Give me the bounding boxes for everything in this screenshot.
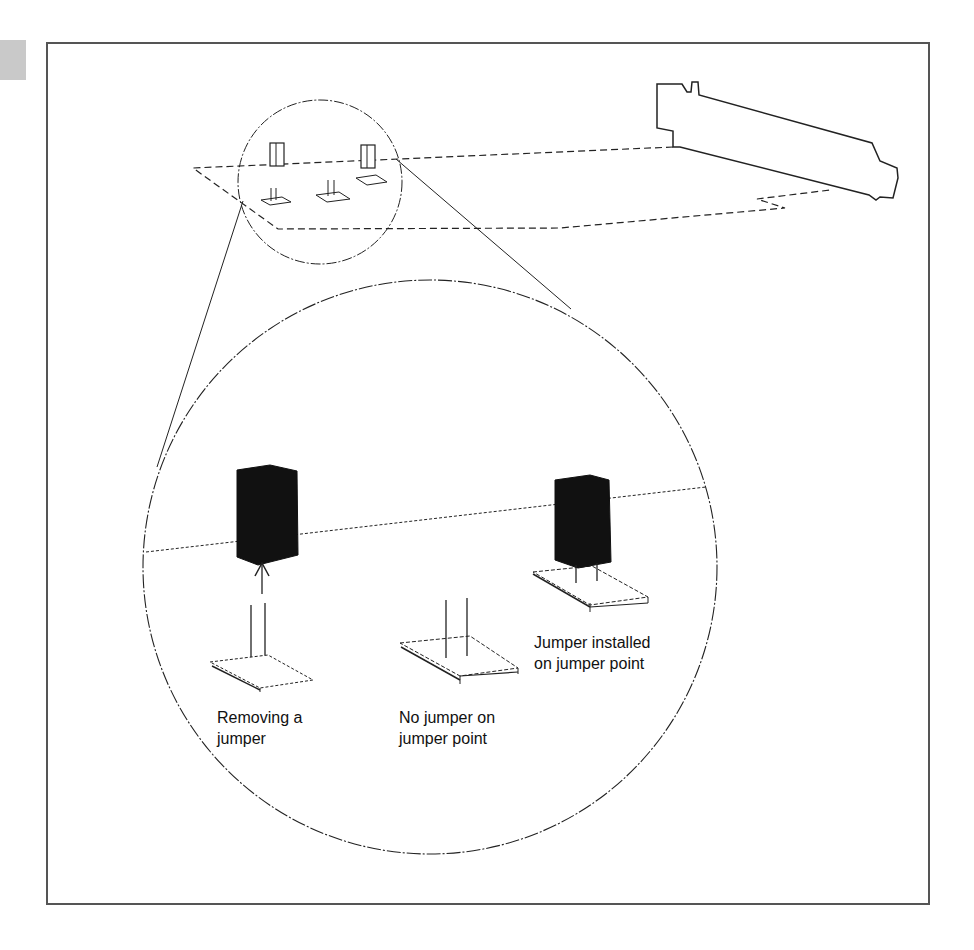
card-board-outline — [193, 147, 830, 229]
card-bracket — [657, 82, 898, 200]
expansion-card — [193, 82, 898, 229]
jumper-installed — [533, 475, 648, 612]
jumper-block-removed — [237, 465, 298, 565]
large-magnifier — [143, 280, 717, 854]
magnifier-connector-lines — [157, 159, 571, 467]
label-no-jumper: No jumper on jumper point — [399, 707, 495, 749]
label-removing-jumper: Removing a jumper — [217, 707, 302, 749]
jumper-removing — [210, 465, 313, 692]
jumper-point-base-1 — [210, 655, 313, 688]
label-jumper-installed: Jumper installed on jumper point — [534, 632, 651, 674]
jumper-point-empty — [400, 598, 518, 684]
diagram-canvas — [0, 0, 974, 950]
small-magnifier — [238, 100, 402, 264]
jumper-block-installed — [555, 475, 611, 568]
